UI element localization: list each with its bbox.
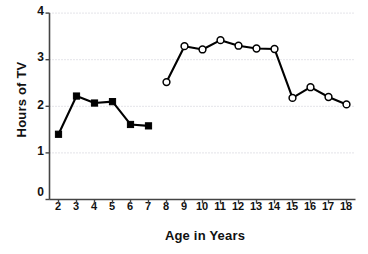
data-point-marker [91,100,97,106]
data-point-marker [217,37,224,44]
data-point-marker [127,121,133,127]
plot-area [0,0,368,254]
axis-ticks [46,13,347,203]
gridlines [50,13,356,153]
data-point-marker [109,99,115,105]
data-series-layer [55,37,350,138]
data-point-marker [253,45,260,52]
series-0 [55,93,151,137]
data-point-marker [163,79,170,86]
data-point-marker [199,46,206,53]
chart-container: Hours of TV Age in Years 0 1 2 3 4 2 3 4… [0,0,368,254]
data-point-marker [325,94,332,101]
data-point-marker [73,93,79,99]
data-point-marker [235,42,242,49]
series-line [59,96,149,134]
data-point-marker [271,46,278,53]
data-point-marker [181,43,188,50]
data-point-marker [343,101,350,108]
data-point-marker [145,123,151,129]
data-point-marker [307,84,314,91]
series-1 [163,37,350,108]
data-point-marker [289,95,296,102]
data-point-marker [55,131,61,137]
